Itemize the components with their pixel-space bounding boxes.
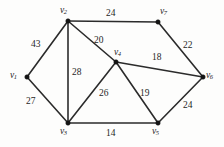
graph-vertex-v2 bbox=[66, 19, 70, 23]
graph-edge-v2-v4 bbox=[68, 21, 116, 62]
graph-vertex-v6 bbox=[201, 75, 205, 79]
graph-edge-v4-v6 bbox=[116, 62, 203, 77]
weighted-graph-figure: v1v2v3v4v5v6v74327282024261419182422 bbox=[0, 0, 224, 147]
graph-edge-v3-v4 bbox=[68, 62, 116, 123]
graph-vertex-v1 bbox=[25, 75, 29, 79]
graph-edge-v4-v5 bbox=[116, 62, 158, 123]
graph-edge-v2-v7 bbox=[68, 21, 158, 22]
graph-vertex-v7 bbox=[156, 20, 160, 24]
graph-edge-v5-v6 bbox=[158, 77, 203, 123]
graph-vertex-v3 bbox=[66, 121, 70, 125]
graph-edge-v6-v7 bbox=[158, 22, 203, 77]
graph-edge-v1-v3 bbox=[27, 77, 68, 123]
edges-group bbox=[27, 21, 203, 123]
graph-vertex-v4 bbox=[114, 60, 118, 64]
graph-canvas bbox=[0, 0, 224, 147]
graph-edge-v1-v2 bbox=[27, 21, 68, 77]
graph-vertex-v5 bbox=[156, 121, 160, 125]
